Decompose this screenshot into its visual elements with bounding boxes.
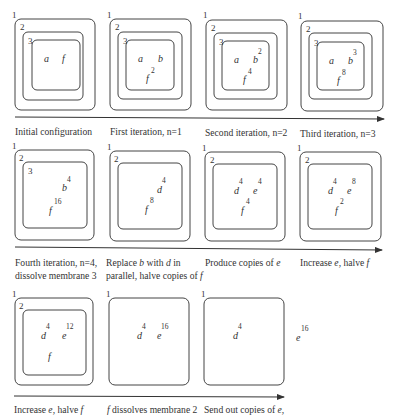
object-f: f — [146, 73, 150, 84]
caption-replace-line1: Replace b with d in — [106, 256, 203, 269]
timeline-arrow-row3 — [14, 396, 284, 397]
membrane-label-2: 2 — [306, 24, 311, 34]
panel-iter1: 1 2 3 a b f 2 — [107, 10, 191, 110]
membrane-label-1: 1 — [107, 10, 112, 20]
caption-iter4-line2: dissolve membrane 3 — [15, 269, 97, 282]
panel-increase-1: 1 2 d 4 e 8 f 2 — [297, 143, 381, 241]
object-d: d — [41, 330, 47, 341]
timeline-arrow-row2 — [15, 247, 382, 250]
membrane-label-1: 1 — [202, 143, 207, 153]
membrane-label-3: 3 — [28, 166, 33, 176]
membrane-label-2: 2 — [114, 154, 119, 164]
membrane-2 — [23, 310, 86, 375]
caption-increase-1: Increase e, halve f — [300, 256, 369, 269]
exponent-e: 16 — [301, 324, 309, 333]
caption-iter2: Second iteration, n=2 — [205, 126, 287, 139]
membrane-label-3: 3 — [28, 36, 33, 46]
membrane-label-2: 2 — [19, 301, 24, 311]
object-f: f — [335, 205, 339, 216]
membrane-1 — [15, 150, 94, 240]
caption-replace-line2: parallel, halve copies of f — [106, 269, 203, 282]
panel-dissolve-2: 1 d 4 e 16 — [106, 289, 189, 385]
membrane-label-2: 2 — [115, 22, 120, 32]
membrane-label-2: 2 — [20, 22, 25, 32]
object-f: f — [145, 204, 149, 215]
membrane-label-1: 1 — [203, 10, 208, 20]
object-a: a — [329, 55, 334, 66]
object-e: e — [62, 330, 67, 341]
object-e: e — [253, 185, 258, 196]
caption-iter1: First iteration, n=1 — [110, 125, 182, 138]
membrane-1 — [205, 152, 285, 241]
membrane-label-1: 1 — [12, 141, 17, 151]
caption-send-out: Send out copies of e, — [204, 403, 284, 415]
exponent-d: 4 — [142, 322, 146, 331]
exponent-e: 16 — [161, 322, 169, 331]
membrane-label-1: 1 — [201, 289, 206, 299]
exponent-b: 2 — [258, 47, 262, 56]
panel-send-out: 1 d 4 e 16 — [201, 289, 309, 385]
exponent-f: 16 — [54, 197, 62, 206]
exponent-d: 4 — [46, 322, 50, 331]
membrane-3 — [126, 40, 174, 90]
exponent-b: 4 — [67, 175, 71, 184]
membrane-3 — [317, 42, 364, 90]
object-f: f — [243, 74, 247, 85]
panel-iter3: 1 2 3 a b 3 f 8 — [298, 11, 383, 111]
caption-initial: Initial configuration — [15, 125, 92, 138]
membrane-label-1: 1 — [107, 142, 112, 152]
exponent-f: 2 — [151, 66, 155, 75]
exponent-d: 4 — [333, 177, 337, 186]
membrane-2 — [23, 162, 87, 228]
membrane-label-1: 1 — [297, 143, 302, 153]
caption-iter3: Third iteration, n=3 — [300, 127, 375, 140]
panel-replace: 1 2 d 4 f 8 — [107, 142, 190, 241]
panel-iter2: 1 2 3 a b 2 f 4 — [203, 10, 287, 110]
timeline-arrow-row1 — [15, 117, 384, 119]
membrane-2 — [213, 164, 277, 229]
exponent-f: 4 — [246, 197, 250, 206]
caption-produce: Produce copies of e — [205, 256, 280, 269]
membrane-3 — [32, 40, 80, 90]
exponent-e: 8 — [352, 177, 356, 186]
exponent-f: 8 — [150, 196, 154, 205]
panel-increase-2: 1 2 d 4 e 12 f — [12, 289, 93, 385]
exponent-f: 8 — [342, 68, 346, 77]
membrane-1 — [109, 298, 189, 385]
exponent-d: 4 — [239, 177, 243, 186]
caption-iter4: Fourth iteration, n=4, dissolve membrane… — [15, 256, 97, 282]
exponent-d: 4 — [162, 176, 166, 185]
caption-replace: Replace b with d in parallel, halve copi… — [106, 256, 203, 282]
caption-iter4-line1: Fourth iteration, n=4, — [15, 256, 97, 269]
object-d: d — [234, 185, 240, 196]
membrane-label-1: 1 — [106, 289, 111, 299]
object-e: e — [157, 330, 162, 341]
object-d: d — [328, 185, 334, 196]
membrane-label-2: 2 — [210, 155, 215, 165]
outside-object-e: e — [296, 332, 301, 343]
caption-dissolve-2: f dissolves membrane 2 — [107, 403, 197, 415]
caption-increase-2: Increase e, halve f — [14, 403, 83, 415]
object-f: f — [241, 205, 245, 216]
membrane-label-3: 3 — [314, 38, 319, 48]
panel-initial: 1 2 3 a f — [12, 10, 95, 110]
object-f: f — [62, 53, 66, 64]
membrane-1 — [15, 298, 93, 385]
object-a: a — [234, 54, 239, 65]
exponent-e: 4 — [258, 177, 262, 186]
membrane-label-1: 1 — [12, 289, 17, 299]
panel-iter4: 1 2 3 b 4 f 16 — [12, 141, 94, 240]
object-d: d — [157, 184, 163, 195]
object-f: f — [337, 75, 341, 86]
panel-produce: 1 2 d 4 e 4 f 4 — [202, 143, 285, 241]
object-d: d — [137, 330, 143, 341]
membrane-label-1: 1 — [298, 11, 303, 21]
object-e: e — [347, 185, 352, 196]
exponent-e: 12 — [66, 322, 74, 331]
object-b: b — [158, 53, 163, 64]
membrane-label-3: 3 — [123, 36, 128, 46]
object-a: a — [44, 53, 49, 64]
membrane-diagram: 1 2 3 a f 1 2 3 a b f 2 1 2 3 a b 2 f 4 … — [0, 0, 395, 415]
exponent-f: 4 — [248, 67, 252, 76]
membrane-1 — [204, 298, 284, 385]
